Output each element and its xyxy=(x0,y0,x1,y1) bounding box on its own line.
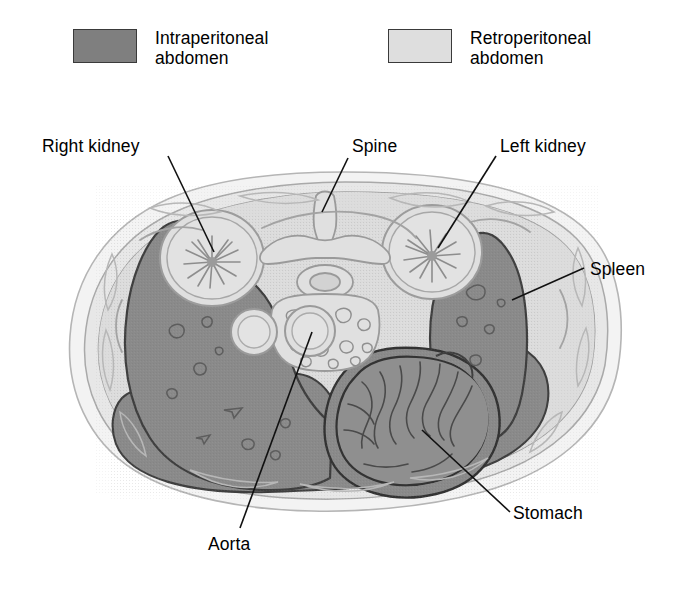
figure-root: Intraperitoneal abdomen Retroperitoneal … xyxy=(0,0,690,594)
aorta-lumen xyxy=(292,313,328,349)
label-spine: Spine xyxy=(352,136,397,156)
stomach-inner-wall xyxy=(337,357,490,486)
right-kidney-hilum xyxy=(207,257,217,267)
label-left-kidney: Left kidney xyxy=(500,136,586,156)
spinal-canal-inner xyxy=(310,273,340,291)
left-kidney-hilum xyxy=(427,251,437,261)
inferior-vena-cava-lumen xyxy=(238,316,270,348)
label-spleen: Spleen xyxy=(590,259,645,279)
stomach-rugae xyxy=(337,357,490,486)
abdomen-cross-section-illustration xyxy=(0,0,690,594)
label-right-kidney: Right kidney xyxy=(42,136,140,156)
left-kidney xyxy=(382,205,482,299)
right-kidney xyxy=(160,210,264,306)
label-stomach: Stomach xyxy=(513,503,583,523)
label-aorta: Aorta xyxy=(208,534,250,554)
